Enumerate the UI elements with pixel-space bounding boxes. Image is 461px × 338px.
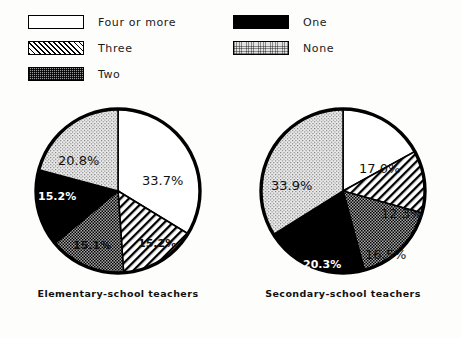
legend-label-three: Three [98, 42, 133, 55]
pie-label-four-or-more: 33.7% [142, 173, 183, 188]
pie-label-none: 20.8% [58, 153, 99, 168]
legend-swatch-three [28, 41, 84, 55]
pie-label-none: 33.9% [271, 178, 312, 193]
pie-label-two: 16.5% [365, 247, 406, 262]
legend-item-two: Two [28, 66, 176, 82]
figure-canvas: Four or more Three Two One None [0, 0, 461, 338]
legend-swatch-four-or-more [28, 15, 84, 29]
legend-label-one: One [303, 16, 327, 29]
legend-label-four-or-more: Four or more [98, 16, 176, 29]
legend: Four or more Three Two One None [0, 0, 461, 92]
pie-label-four-or-more: 17.0% [359, 161, 400, 176]
legend-column-left: Four or more Three Two [28, 14, 176, 92]
legend-item-one: One [233, 14, 334, 30]
pie-label-one: 20.3% [303, 258, 341, 271]
pie-label-one: 15.2% [38, 190, 76, 203]
pie-svg-secondary: 17.0% 12.3% 16.5% 20.3% 33.9% [253, 96, 433, 286]
legend-swatch-two [28, 67, 84, 81]
legend-swatch-one [233, 15, 289, 29]
pie-label-two: 15.1% [73, 239, 111, 252]
legend-item-four-or-more: Four or more [28, 14, 176, 30]
chart-secondary: 17.0% 12.3% 16.5% 20.3% 33.9% Secondary-… [243, 96, 443, 338]
legend-label-none: None [303, 42, 334, 55]
legend-swatch-none [233, 41, 289, 55]
legend-column-right: One None [233, 14, 334, 66]
pie-label-three: 12.3% [381, 206, 422, 221]
chart-caption-secondary: Secondary-school teachers [243, 288, 443, 299]
legend-item-none: None [233, 40, 334, 56]
chart-caption-elementary: Elementary-school teachers [18, 288, 218, 299]
pie-label-three: 15.2% [138, 237, 176, 250]
pie-svg-elementary: 33.7% 15.2% 15.1% 15.2% 20.8% [28, 96, 208, 286]
legend-item-three: Three [28, 40, 176, 56]
legend-label-two: Two [98, 68, 120, 81]
chart-elementary: 33.7% 15.2% 15.1% 15.2% 20.8% Elementary… [18, 96, 218, 338]
